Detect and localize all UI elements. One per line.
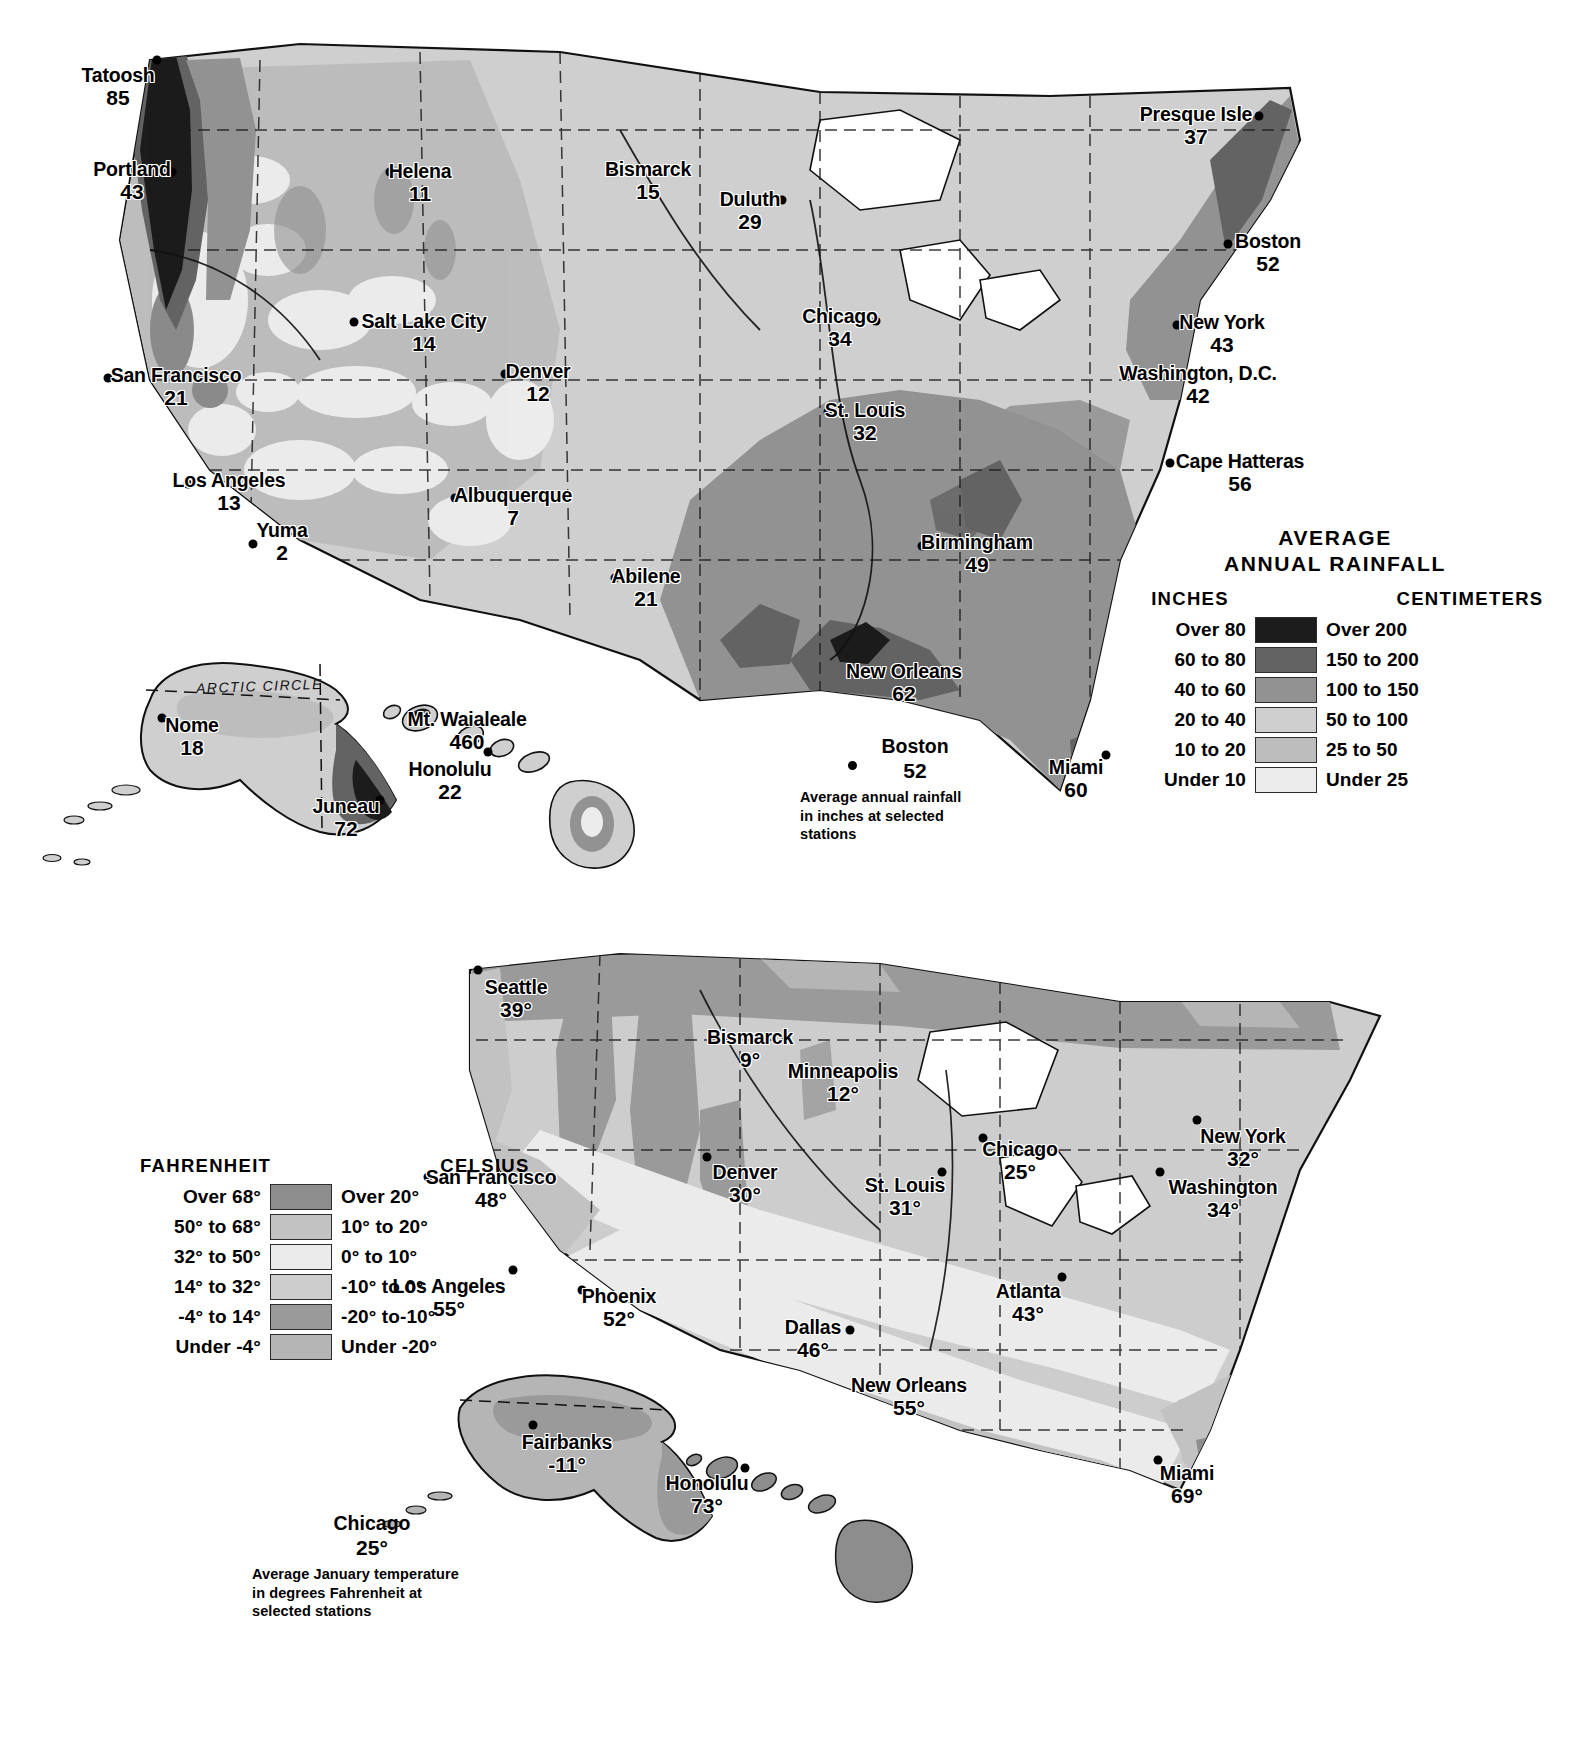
rainfall-station-label-8: Washington, D.C.42 — [1119, 364, 1276, 406]
temperature-station-name-4: New York — [1200, 1125, 1285, 1147]
rainfall-station-value-21: 21 — [611, 588, 680, 609]
rainfall-station-label-13: New Orleans62 — [846, 662, 962, 704]
rainfall-station-name-3: Bismarck — [605, 158, 691, 180]
temperature-station-label-8: New Orleans55° — [851, 1376, 967, 1418]
temperature-station-value-0: 39° — [485, 999, 548, 1020]
temperature-legend-swatch-0 — [270, 1184, 332, 1210]
temperature-legend-row-1: 50° to 68°10° to 20° — [140, 1214, 560, 1240]
rainfall-legend-swatch-3 — [1255, 707, 1317, 733]
rainfall-station-label-24: Mt. Waialeale460 — [407, 710, 526, 752]
rainfall-legend-left-label-5: Under 10 — [1125, 769, 1255, 791]
rainfall-station-label-16: Denver12 — [506, 362, 571, 404]
rainfall-station-label-21: Abilene21 — [611, 567, 680, 609]
rainfall-legend-swatch-0 — [1255, 617, 1317, 643]
temperature-station-label-5: Washington34° — [1169, 1178, 1278, 1220]
temperature-legend-right-label-2: 0° to 10° — [332, 1246, 482, 1268]
temperature-legend-row-0: Over 68°Over 20° — [140, 1184, 560, 1210]
rainfall-legend-left-label-2: 40 to 60 — [1125, 679, 1255, 701]
temperature-legend-row-2: 32° to 50°0° to 10° — [140, 1244, 560, 1270]
temperature-station-name-8: New Orleans — [851, 1374, 967, 1396]
temperature-station-value-10: 31° — [865, 1197, 946, 1218]
rainfall-legend-right-label-4: 25 to 50 — [1317, 739, 1467, 761]
rainfall-station-label-14: Miami60 — [1049, 758, 1103, 800]
rainfall-station-name-2: Helena — [389, 160, 452, 182]
sample-station-dot — [848, 761, 857, 770]
temperature-legend-right-label-3: -10° to 0° — [332, 1276, 482, 1298]
rainfall-legend-right-label-2: 100 to 150 — [1317, 679, 1467, 701]
temperature-legend-row-4: -4° to 14°-20° to-10° — [140, 1304, 560, 1330]
rainfall-station-value-22: 18 — [165, 737, 218, 758]
temperature-legend-swatch-3 — [270, 1274, 332, 1300]
temperature-legend-left-label-3: 14° to 32° — [140, 1276, 270, 1298]
rainfall-station-value-6: 52 — [1235, 253, 1301, 274]
temp-sample-station-name: Chicago — [252, 1512, 492, 1535]
temperature-station-label-9: Dallas46° — [785, 1318, 841, 1360]
rainfall-station-dot-9 — [1166, 459, 1175, 468]
temperature-station-label-11: Denver30° — [713, 1163, 778, 1205]
temperature-station-value-7: 69° — [1160, 1485, 1214, 1506]
temperature-station-label-10: St. Louis31° — [865, 1176, 946, 1218]
temperature-station-name-3: Chicago — [982, 1138, 1058, 1160]
rainfall-station-value-25: 22 — [409, 781, 492, 802]
rainfall-legend-row-5: Under 10Under 25 — [1125, 767, 1545, 793]
temperature-station-dot-5 — [1156, 1168, 1165, 1177]
rainfall-station-label-20: Albuquerque7 — [454, 486, 572, 528]
rainfall-station-name-10: Chicago — [802, 305, 878, 327]
temperature-station-name-0: Seattle — [485, 976, 548, 998]
temperature-station-label-2: Minneapolis12° — [788, 1062, 898, 1104]
temperature-sample-station: Chicago 25° Average January temperature … — [252, 1512, 492, 1621]
rainfall-legend-row-1: 60 to 80150 to 200 — [1125, 647, 1545, 673]
temperature-legend-left-label-0: Over 68° — [140, 1186, 270, 1208]
rainfall-station-value-14: 60 — [1049, 779, 1103, 800]
rainfall-legend-title: AVERAGE ANNUAL RAINFALL — [1125, 525, 1545, 576]
temperature-legend-rows: Over 68°Over 20°50° to 68°10° to 20°32° … — [140, 1184, 560, 1360]
rainfall-station-value-18: 13 — [172, 492, 285, 513]
temperature-legend-right-label-4: -20° to-10° — [332, 1306, 482, 1328]
rainfall-sample-caption: Average annual rainfall in inches at sel… — [800, 788, 1030, 844]
temperature-station-name-12: Phoenix — [582, 1285, 656, 1307]
rainfall-legend-unit-centimeters: CENTIMETERS — [1395, 588, 1545, 610]
rainfall-station-name-14: Miami — [1049, 756, 1103, 778]
rainfall-station-name-11: St. Louis — [825, 399, 906, 421]
temperature-station-label-7: Miami69° — [1160, 1464, 1214, 1506]
temperature-legend-headers: FAHRENHEIT CELSIUS — [140, 1155, 560, 1177]
rainfall-legend-row-4: 10 to 2025 to 50 — [1125, 737, 1545, 763]
rainfall-station-value-2: 11 — [389, 183, 452, 204]
temperature-legend-left-label-5: Under -4° — [140, 1336, 270, 1358]
temperature-legend-left-label-4: -4° to 14° — [140, 1306, 270, 1328]
rainfall-station-label-2: Helena11 — [389, 162, 452, 204]
rainfall-station-name-20: Albuquerque — [454, 484, 572, 506]
temperature-legend-unit-celsius: CELSIUS — [410, 1155, 560, 1177]
rainfall-station-dot-15 — [350, 318, 359, 327]
rainfall-station-name-1: Portland — [93, 158, 171, 180]
temperature-station-name-11: Denver — [713, 1161, 778, 1183]
rainfall-legend-left-label-4: 10 to 20 — [1125, 739, 1255, 761]
temperature-legend-left-label-2: 32° to 50° — [140, 1246, 270, 1268]
temperature-station-value-1: 9° — [707, 1049, 793, 1070]
rainfall-station-value-13: 62 — [846, 683, 962, 704]
temperature-station-value-9: 46° — [785, 1339, 841, 1360]
temperature-legend-right-label-5: Under -20° — [332, 1336, 482, 1358]
rainfall-station-name-23: Juneau — [312, 795, 379, 817]
rainfall-legend-swatch-1 — [1255, 647, 1317, 673]
temperature-station-name-10: St. Louis — [865, 1174, 946, 1196]
temperature-station-label-6: Atlanta43° — [996, 1282, 1061, 1324]
temperature-station-dot-4 — [1193, 1116, 1202, 1125]
rainfall-station-name-15: Salt Lake City — [361, 310, 486, 332]
rainfall-legend-left-label-3: 20 to 40 — [1125, 709, 1255, 731]
temperature-station-dot-0 — [474, 966, 483, 975]
rainfall-station-name-22: Nome — [165, 714, 218, 736]
temperature-station-value-4: 32° — [1200, 1148, 1285, 1169]
rainfall-station-value-0: 85 — [82, 87, 155, 108]
rainfall-legend-right-label-1: 150 to 200 — [1317, 649, 1467, 671]
rainfall-station-label-25: Honolulu22 — [409, 760, 492, 802]
temperature-legend-left-label-1: 50° to 68° — [140, 1216, 270, 1238]
rainfall-station-name-17: San Francisco — [111, 364, 242, 386]
temp-sample-station-value: 25° — [252, 1536, 492, 1560]
temperature-legend-row-3: 14° to 32°-10° to 0° — [140, 1274, 560, 1300]
rainfall-station-value-15: 14 — [361, 333, 486, 354]
temperature-station-value-3: 25° — [982, 1161, 1058, 1182]
temperature-legend-swatch-4 — [270, 1304, 332, 1330]
temperature-station-dot-11 — [703, 1153, 712, 1162]
temperature-legend-right-label-1: 10° to 20° — [332, 1216, 482, 1238]
